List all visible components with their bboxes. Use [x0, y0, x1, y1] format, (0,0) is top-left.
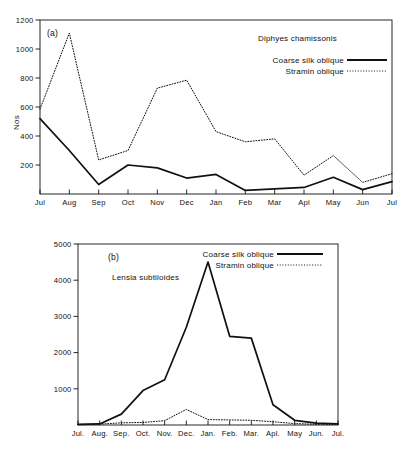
x-tick-label: Jul	[35, 198, 45, 207]
x-tick-label: Jun	[356, 198, 369, 207]
y-tick-label: 2000	[54, 348, 72, 357]
x-tick-label: Mar.	[244, 429, 260, 438]
legend-label: Coarse silk oblique	[273, 56, 345, 65]
x-tick-label: Jul.	[332, 429, 345, 438]
x-tick-label: Apl.	[266, 429, 280, 438]
x-tick-label: Nov.	[157, 429, 173, 438]
y-tick-label: 1200	[16, 16, 34, 25]
y-tick-label: 4000	[54, 276, 72, 285]
panel-letter: (a)	[47, 28, 58, 38]
plot-frame	[78, 244, 338, 425]
x-tick-label: Jul	[387, 198, 397, 207]
x-tick-label: Dec	[180, 198, 194, 207]
x-tick-label: Jan.	[200, 429, 215, 438]
chart-panel-a: Nos 20040060080010001200JulAugSepOctNovD…	[0, 0, 404, 230]
x-tick-label: Nov	[150, 198, 164, 207]
legend-label: Stramin oblique	[215, 261, 274, 270]
x-tick-label: Oct	[122, 198, 135, 207]
plot-area-b: 10002000300040005000Jul.Aug.Sep.Oct.Nov.…	[0, 230, 404, 473]
y-tick-label: 1000	[16, 45, 34, 54]
y-tick-label: 3000	[54, 312, 72, 321]
x-tick-label: Jul.	[72, 429, 85, 438]
y-tick-label: 200	[20, 161, 33, 170]
y-tick-label: 400	[20, 132, 33, 141]
y-tick-label: 1000	[54, 385, 72, 394]
x-tick-label: Sep.	[113, 429, 129, 438]
y-axis-title-a: Nos	[12, 115, 21, 130]
x-tick-label: Feb.	[222, 429, 238, 438]
y-tick-label: 800	[20, 74, 33, 83]
x-tick-label: Aug	[62, 198, 76, 207]
series-line-coarse-silk-oblique	[78, 262, 338, 424]
panel-letter: (b)	[108, 252, 119, 262]
plot-frame	[40, 20, 392, 194]
legend-label: Stramin oblique	[285, 67, 344, 76]
x-tick-label: Aug.	[91, 429, 107, 438]
legend-label: Coarse silk oblique	[203, 250, 275, 259]
x-tick-label: May	[326, 198, 341, 207]
x-tick-label: Oct.	[136, 429, 151, 438]
plot-area-a: 20040060080010001200JulAugSepOctNovDecJa…	[0, 0, 404, 230]
x-tick-label: Jan	[210, 198, 223, 207]
x-tick-label: Jun.	[309, 429, 324, 438]
x-tick-label: Dec.	[178, 429, 194, 438]
x-tick-label: Sep	[92, 198, 106, 207]
x-tick-label: Apl	[298, 198, 310, 207]
x-tick-label: May	[287, 429, 302, 438]
species-name: Lensia subtiloides	[112, 273, 179, 282]
species-name: Diphyes chamissonis	[258, 34, 337, 43]
series-line-coarse-silk-oblique	[40, 119, 392, 191]
x-tick-label: Feb	[238, 198, 252, 207]
chart-panel-b: Nos. 10002000300040005000Jul.Aug.Sep.Oct…	[0, 230, 404, 473]
x-tick-label: Mar	[268, 198, 282, 207]
figure-container: Nos 20040060080010001200JulAugSepOctNovD…	[0, 0, 404, 473]
y-tick-label: 600	[20, 103, 33, 112]
y-tick-label: 5000	[54, 240, 72, 249]
